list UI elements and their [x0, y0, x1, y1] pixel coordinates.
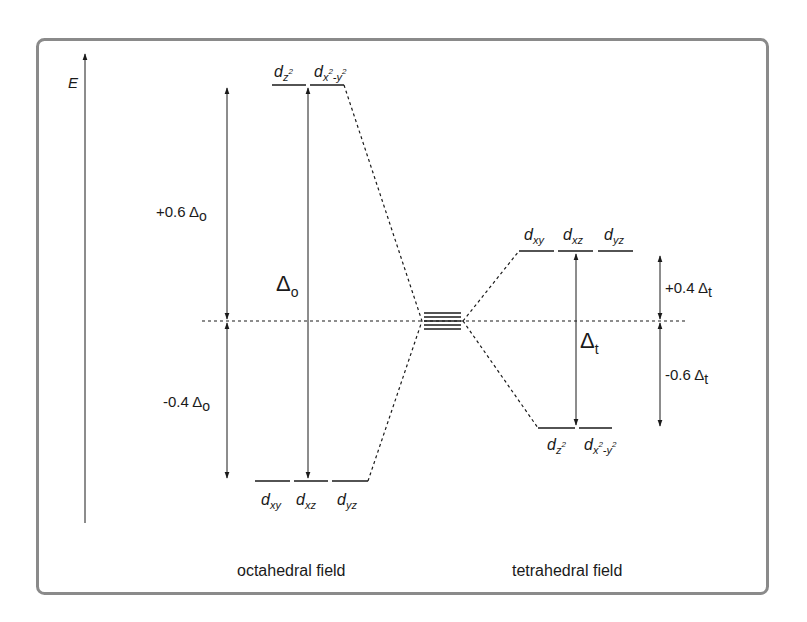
tetrahedral-field-title: tetrahedral field	[512, 562, 622, 579]
crystal-field-diagram: E dz2 dx2-y2 dxy dxz dyz +0.6 Δo -0.4 Δo…	[0, 0, 807, 622]
octahedral-field-title: octahedral field	[237, 562, 346, 579]
diagram-frame	[38, 40, 768, 594]
energy-axis-label: E	[68, 74, 79, 91]
